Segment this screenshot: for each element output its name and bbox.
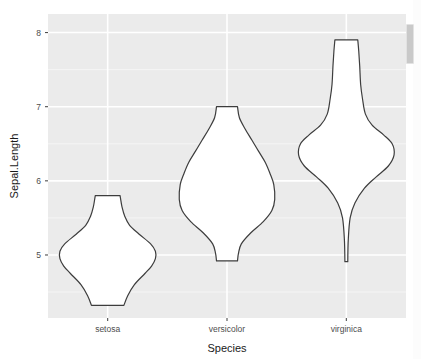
x-axis-title: Species (207, 342, 247, 354)
vertical-scrollbar-thumb[interactable] (406, 24, 414, 64)
violin-plot-screen: 5678 setosaversicolorvirginica Sepal.Len… (0, 0, 427, 359)
y-axis-title: Sepal.Length (8, 134, 20, 199)
x-axis-tick-label-setosa: setosa (95, 324, 120, 334)
x-axis-tick-label-virginica: virginica (331, 324, 362, 334)
y-axis-tick-label: 5 (36, 250, 41, 260)
y-axis-tick-label: 7 (36, 102, 41, 112)
y-axis-tick-label: 8 (36, 28, 41, 38)
x-axis-tick-label-versicolor: versicolor (209, 324, 246, 334)
violin-plot-figure: 5678 setosaversicolorvirginica Sepal.Len… (0, 0, 427, 359)
y-axis-tick-label: 6 (36, 176, 41, 186)
vertical-scrollbar-track[interactable] (413, 0, 421, 359)
